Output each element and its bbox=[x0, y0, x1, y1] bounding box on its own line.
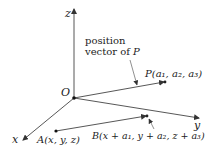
origin-dot bbox=[72, 96, 76, 100]
vector-diagram: z y x O position vector of P P(a₁, a₂, a… bbox=[0, 0, 207, 152]
point-p-dot bbox=[164, 81, 167, 84]
x-axis-label: x bbox=[12, 134, 18, 145]
point-b-label: B(x + a₁, y + a₂, z + a₃) bbox=[92, 131, 205, 141]
point-b-dot bbox=[146, 115, 149, 118]
callout-pointer bbox=[130, 60, 137, 85]
annotation-line2: vector of P bbox=[85, 47, 140, 57]
y-axis bbox=[74, 98, 199, 118]
annotation-var: P bbox=[133, 46, 140, 57]
position-vector-op bbox=[74, 82, 164, 98]
callout-pointer-b bbox=[149, 119, 154, 129]
point-a-dot bbox=[54, 129, 57, 132]
point-a-label: A(x, y, z) bbox=[37, 135, 80, 145]
origin-label: O bbox=[61, 87, 70, 98]
annotation-prefix: vector of bbox=[85, 46, 133, 57]
z-axis-label: z bbox=[65, 8, 71, 19]
annotation-line1: position bbox=[85, 36, 125, 46]
vector-ab bbox=[56, 116, 146, 131]
point-p-label: P(a₁, a₂, a₃) bbox=[145, 69, 202, 79]
